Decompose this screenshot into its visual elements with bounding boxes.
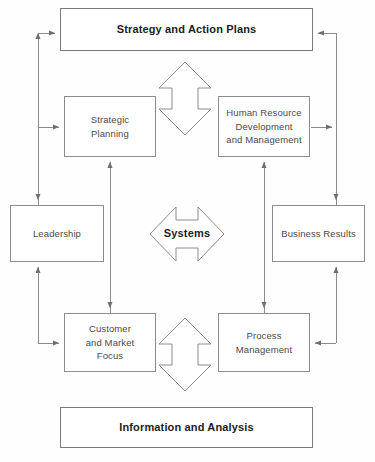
node-human-resource-label: Human Resource Development and Managemen… bbox=[226, 106, 301, 147]
systems-horizontal-double-arrow-icon bbox=[150, 207, 224, 261]
node-strategic-planning-label: Strategic Planning bbox=[91, 113, 129, 140]
node-information-and-analysis-label: Information and Analysis bbox=[119, 421, 254, 435]
node-customer-and-market-focus-label: Customer and Market Focus bbox=[86, 322, 135, 363]
connector-right-spine-to-strategy bbox=[318, 33, 336, 205]
node-business-results-label: Business Results bbox=[281, 227, 355, 241]
node-strategy-and-action-plans[interactable]: Strategy and Action Plans bbox=[60, 8, 313, 51]
node-information-and-analysis[interactable]: Information and Analysis bbox=[60, 407, 313, 448]
connector-customer-to-leadership bbox=[38, 267, 59, 343]
connector-process-to-business-results bbox=[315, 267, 336, 343]
node-process-management[interactable]: Process Management bbox=[218, 313, 310, 372]
node-customer-and-market-focus[interactable]: Customer and Market Focus bbox=[64, 313, 156, 372]
node-leadership-label: Leadership bbox=[33, 227, 81, 241]
diagram-canvas: Strategy and Action Plans Strategic Plan… bbox=[0, 0, 375, 462]
node-leadership[interactable]: Leadership bbox=[10, 205, 104, 262]
node-strategy-and-action-plans-label: Strategy and Action Plans bbox=[117, 23, 257, 37]
bottom-vertical-double-arrow-icon bbox=[159, 318, 211, 391]
node-human-resource-development-and-management[interactable]: Human Resource Development and Managemen… bbox=[218, 96, 310, 157]
node-process-management-label: Process Management bbox=[236, 329, 292, 356]
node-strategic-planning[interactable]: Strategic Planning bbox=[64, 96, 156, 157]
node-business-results[interactable]: Business Results bbox=[272, 205, 365, 262]
top-vertical-double-arrow-icon bbox=[159, 62, 211, 135]
